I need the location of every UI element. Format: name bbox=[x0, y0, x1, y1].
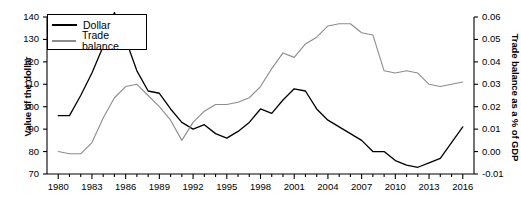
y-tick-label-right-0: -0.01 bbox=[482, 168, 516, 179]
legend-label-trade-balance: Trade balance bbox=[82, 30, 146, 52]
y-tick-label-left-0: 70 bbox=[11, 168, 39, 179]
legend-swatch-trade-balance bbox=[52, 40, 76, 42]
y-tick-label-left-1: 80 bbox=[11, 146, 39, 157]
y-tick-label-right-2: 0.01 bbox=[482, 123, 516, 134]
y-tick-label-left-4: 110 bbox=[11, 78, 39, 89]
y-tick-label-left-3: 100 bbox=[11, 101, 39, 112]
y-tick-label-right-5: 0.04 bbox=[482, 56, 516, 67]
y-tick-label-right-6: 0.05 bbox=[482, 33, 516, 44]
chart-legend: Dollar Trade balance bbox=[47, 14, 147, 50]
y-tick-label-left-7: 140 bbox=[11, 11, 39, 22]
y-tick-label-left-5: 120 bbox=[11, 56, 39, 67]
y-tick-label-right-1: 0.00 bbox=[482, 146, 516, 157]
legend-swatch-dollar bbox=[52, 24, 77, 26]
legend-item-trade-balance: Trade balance bbox=[52, 33, 146, 49]
y-tick-label-left-2: 90 bbox=[11, 123, 39, 134]
y-tick-label-right-7: 0.06 bbox=[482, 11, 516, 22]
x-tick-label-12: 2016 bbox=[443, 181, 483, 192]
y-tick-label-right-4: 0.03 bbox=[482, 78, 516, 89]
y-tick-label-right-3: 0.02 bbox=[482, 101, 516, 112]
y-tick-label-left-6: 130 bbox=[11, 33, 39, 44]
